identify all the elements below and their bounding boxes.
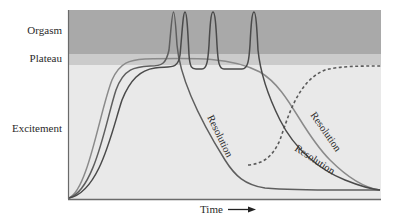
plateau-band (68, 54, 381, 65)
time-label: Time (200, 203, 223, 215)
response-cycle-diagram: Resolution Resolution Resolution Time (0, 0, 395, 223)
arrow-right-icon (228, 207, 256, 213)
orgasm-band (68, 10, 381, 54)
